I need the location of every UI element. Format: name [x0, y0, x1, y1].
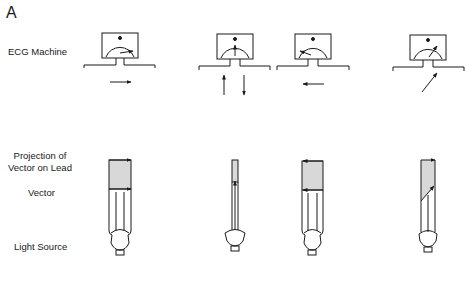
ecg-meter-3 [277, 34, 349, 70]
diagram-canvas [0, 0, 465, 296]
ecg-meter-4 [393, 35, 464, 71]
light-source-4 [419, 160, 437, 252]
light-source-3 [302, 161, 323, 255]
light-source-1 [109, 160, 131, 255]
lead-arrow-4 [422, 73, 437, 92]
ecg-meter-2 [199, 34, 270, 70]
ecg-meter-1 [84, 33, 155, 68]
light-source-2 [225, 160, 245, 251]
